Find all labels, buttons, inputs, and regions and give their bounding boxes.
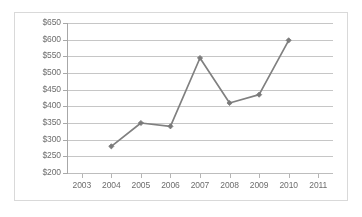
- x-tick-label-2011: 2011: [309, 180, 327, 190]
- y-tick-mark-600: [63, 40, 67, 41]
- x-tick-label-2010: 2010: [279, 180, 298, 190]
- x-tick-label-2007: 2007: [191, 180, 210, 190]
- data-series-layer: [0, 0, 362, 217]
- x-tick-mark-2008: [230, 174, 231, 178]
- y-tick-mark-400: [63, 106, 67, 107]
- x-tick-mark-2011: [318, 174, 319, 178]
- x-tick-label-2004: 2004: [102, 180, 121, 190]
- y-tick-mark-550: [63, 56, 67, 57]
- x-tick-mark-2004: [111, 174, 112, 178]
- x-tick-mark-2010: [289, 174, 290, 178]
- x-tick-label-2003: 2003: [73, 180, 92, 190]
- x-tick-mark-2006: [170, 174, 171, 178]
- x-tick-label-2009: 2009: [250, 180, 269, 190]
- x-tick-mark-2003: [82, 174, 83, 178]
- x-tick-label-2006: 2006: [161, 180, 180, 190]
- y-tick-mark-250: [63, 156, 67, 157]
- y-tick-mark-450: [63, 90, 67, 91]
- y-tick-mark-200: [63, 173, 67, 174]
- y-tick-mark-300: [63, 140, 67, 141]
- line-chart-figure: $650$600$550$500$450$400$350$300$250$200…: [0, 0, 362, 217]
- x-tick-label-2005: 2005: [132, 180, 151, 190]
- x-tick-mark-2009: [259, 174, 260, 178]
- y-tick-mark-650: [63, 23, 67, 24]
- data-point-2006: [168, 124, 173, 129]
- y-tick-mark-500: [63, 73, 67, 74]
- x-tick-mark-2005: [141, 174, 142, 178]
- x-tick-mark-2007: [200, 174, 201, 178]
- x-tick-label-2008: 2008: [220, 180, 239, 190]
- y-tick-mark-350: [63, 123, 67, 124]
